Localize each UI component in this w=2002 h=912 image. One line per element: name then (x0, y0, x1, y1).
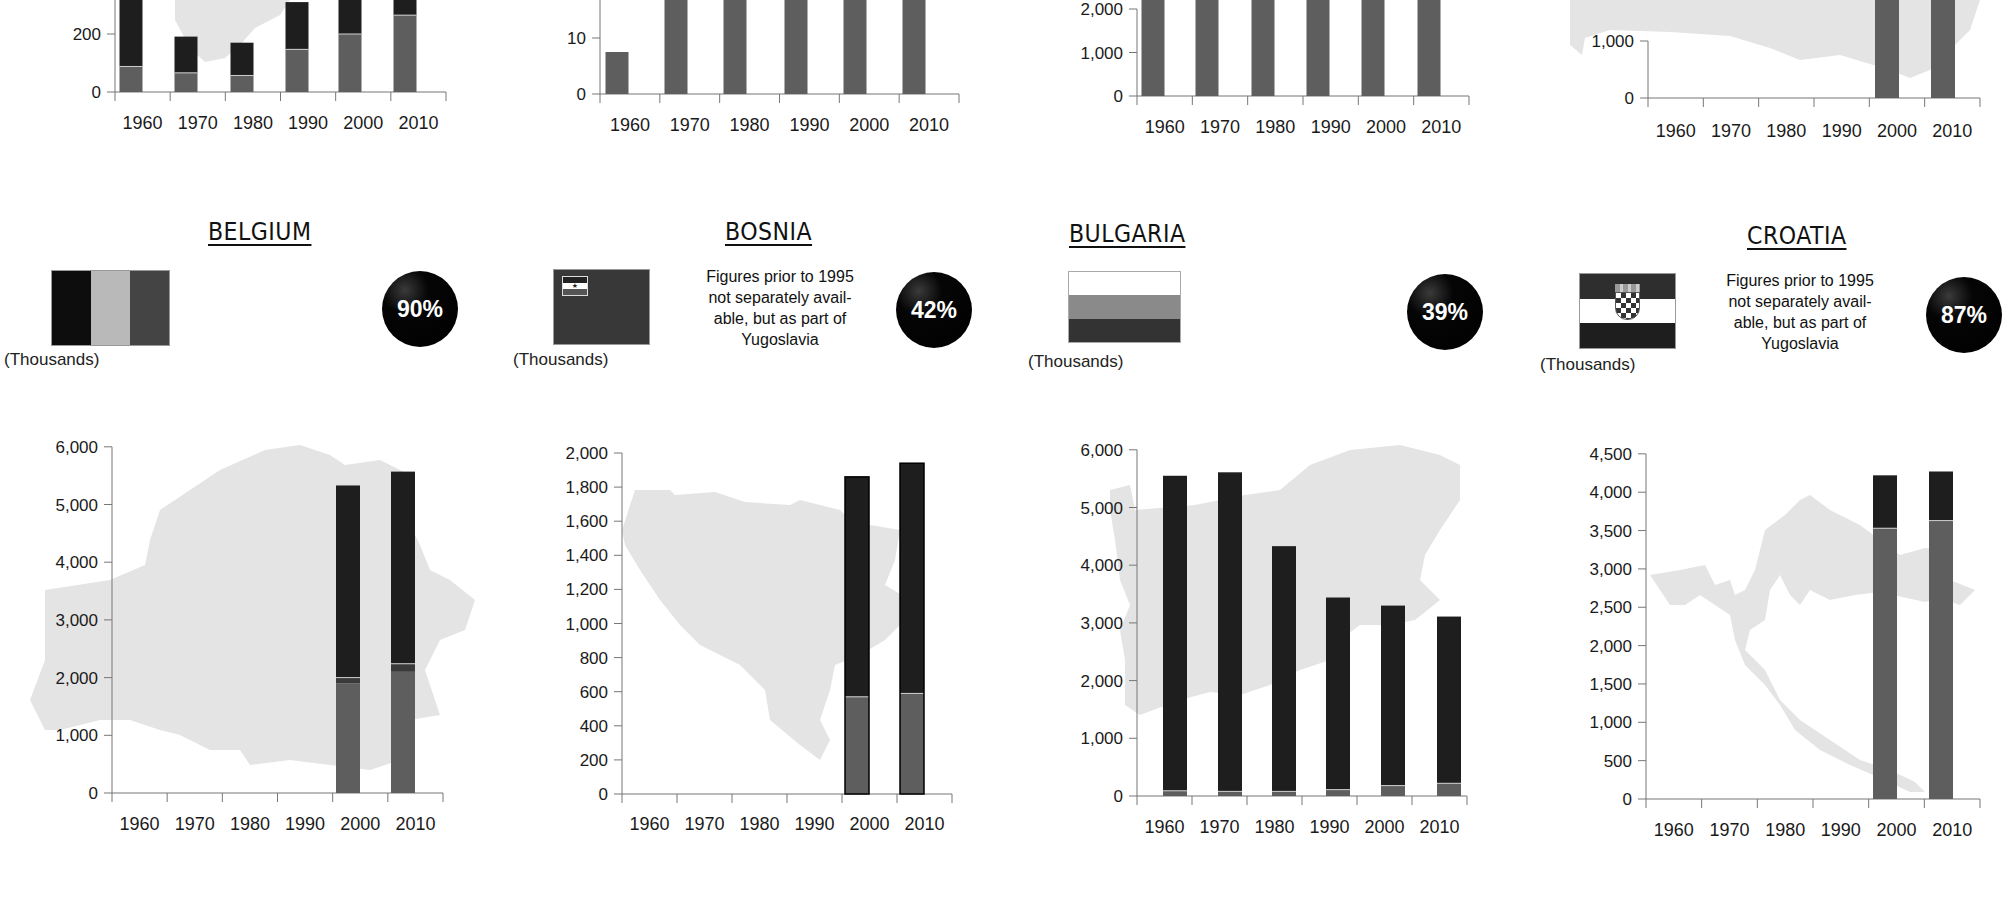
x-tick-label: 2000 (340, 814, 380, 834)
y-tick-label: 4,000 (55, 553, 98, 572)
y-tick-label: 800 (580, 649, 608, 668)
country-title-belgium: BELGIUM (208, 218, 311, 246)
bar-segment (1307, 0, 1330, 96)
x-tick-label: 1960 (1145, 117, 1185, 137)
bar-segment (120, 66, 143, 92)
y-tick-label: 1,800 (565, 478, 608, 497)
x-tick-label: 2010 (398, 113, 438, 133)
x-tick-label: 1980 (233, 113, 273, 133)
y-tick-label: 2,000 (1080, 0, 1123, 19)
top-chart-1: 0200196019701980199020002010 (0, 0, 480, 140)
x-tick-label: 1990 (1822, 121, 1862, 141)
x-tick-label: 1990 (1309, 817, 1349, 837)
bar-segment (900, 463, 924, 693)
bar-segment (1142, 0, 1165, 96)
bar-segment (1163, 791, 1187, 796)
y-tick-label: 3,500 (1589, 522, 1632, 541)
y-tick-label: 2,000 (1589, 637, 1632, 656)
note-line: not separately avail- (1710, 291, 1890, 312)
flag-bulgaria-icon (1068, 271, 1181, 343)
bar-segment (391, 672, 415, 793)
bar-segment (1873, 475, 1897, 528)
top-chart-4: 01,000196019701980199020002010 (1500, 0, 1980, 140)
x-tick-label: 1980 (1254, 817, 1294, 837)
y-tick-label: 3,000 (1080, 614, 1123, 633)
x-tick-label: 1960 (1654, 820, 1694, 840)
x-tick-label: 1980 (1255, 117, 1295, 137)
bar-segment (1875, 0, 1899, 98)
note-line: Figures prior to 1995 (1710, 270, 1890, 291)
y-tick-label: 0 (1114, 87, 1123, 106)
bar-segment (175, 73, 198, 92)
chart-bosnia: 02004006008001,0001,2001,4001,6001,8002,… (500, 430, 1000, 850)
bar-segment (339, 34, 362, 92)
country-title-bosnia: BOSNIA (725, 218, 812, 246)
y-tick-label: 1,500 (1589, 675, 1632, 694)
y-tick-label: 6,000 (1080, 441, 1123, 460)
x-tick-label: 2010 (1932, 820, 1972, 840)
bar-segment (1381, 606, 1405, 786)
x-tick-label: 1990 (789, 115, 829, 135)
y-tick-label: 2,500 (1589, 598, 1632, 617)
country-title-croatia: CROATIA (1747, 222, 1846, 250)
x-tick-label: 2000 (849, 115, 889, 135)
bar-segment (1163, 476, 1187, 791)
x-tick-label: 1980 (230, 814, 270, 834)
x-tick-label: 1970 (1200, 117, 1240, 137)
x-tick-label: 2000 (1364, 817, 1404, 837)
bar-segment (1437, 783, 1461, 796)
x-tick-label: 1960 (1144, 817, 1184, 837)
bar-segment (1326, 598, 1350, 790)
bar-segment (391, 664, 415, 672)
y-tick-label: 5,000 (55, 496, 98, 515)
x-tick-label: 1970 (1199, 817, 1239, 837)
y-tick-label: 1,000 (1080, 729, 1123, 748)
bar-segment (785, 0, 808, 94)
y-tick-label: 1,000 (55, 726, 98, 745)
availability-note: Figures prior to 1995 not separately ava… (690, 266, 870, 350)
bar-segment (231, 43, 254, 76)
y-tick-label: 6,000 (55, 438, 98, 457)
note-line: Yugoslavia (1710, 333, 1890, 354)
bar-segment (391, 472, 415, 664)
flag-bosnia-icon: ★ (553, 269, 650, 345)
y-tick-label: 4,500 (1589, 445, 1632, 464)
x-tick-label: 1960 (1656, 121, 1696, 141)
y-tick-label: 5,000 (1080, 499, 1123, 518)
note-line: able, but as part of (690, 308, 870, 329)
y-tick-label: 1,000 (1080, 44, 1123, 63)
x-tick-label: 1960 (610, 115, 650, 135)
y-tick-label: 1,000 (565, 615, 608, 634)
units-label: (Thousands) (4, 350, 99, 370)
bar-segment (286, 49, 309, 92)
note-line: Figures prior to 1995 (690, 266, 870, 287)
bar-segment (1218, 472, 1242, 791)
y-tick-label: 500 (1604, 752, 1632, 771)
x-tick-label: 1980 (730, 115, 770, 135)
bar-segment (1196, 0, 1219, 96)
x-tick-label: 2010 (1421, 117, 1461, 137)
bar-segment (900, 693, 924, 794)
x-tick-label: 2010 (904, 814, 944, 834)
y-tick-label: 200 (73, 25, 101, 44)
bar-segment (336, 678, 360, 684)
y-tick-label: 0 (92, 83, 101, 102)
note-line: not separately avail- (690, 287, 870, 308)
percent-badge: 90% (382, 271, 458, 347)
chart-croatia: 05001,0001,5002,0002,5003,0003,5004,0004… (1530, 430, 1980, 850)
x-tick-label: 2010 (395, 814, 435, 834)
bar-segment (1437, 617, 1461, 784)
bar-segment (1252, 0, 1275, 96)
map-silhouette (1650, 495, 1975, 792)
x-tick-label: 1990 (794, 814, 834, 834)
y-tick-label: 200 (580, 751, 608, 770)
bar-segment (724, 0, 747, 94)
y-tick-label: 2,000 (565, 444, 608, 463)
note-line: able, but as part of (1710, 312, 1890, 333)
y-tick-label: 1,600 (565, 512, 608, 531)
bar-segment (175, 37, 198, 73)
bar-segment (1362, 0, 1385, 96)
flag-croatia-icon (1579, 273, 1676, 349)
bar-segment (339, 0, 362, 34)
y-tick-label: 1,000 (1589, 713, 1632, 732)
